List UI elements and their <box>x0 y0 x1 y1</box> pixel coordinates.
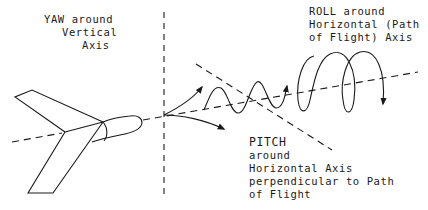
lower-stabilizer <box>28 122 103 193</box>
pitch-label-line-1: PITCH <box>249 136 394 149</box>
roll-label-line-1: ROLL around <box>309 5 420 18</box>
fuselage <box>92 116 142 142</box>
roll-label: ROLL around Horizontal (Path of Flight) … <box>309 5 420 44</box>
yaw-arrow-down <box>164 115 224 129</box>
roll-label-line-2: Horizontal (Path <box>309 18 420 31</box>
pitch-label-line-5: of Flight <box>249 188 394 201</box>
pitch-label: PITCH around Horizontal Axis perpendicul… <box>249 136 394 201</box>
horizontal-axis-dashed-line-rear <box>12 133 62 142</box>
horizontal-axis-dashed-line-front <box>143 72 418 120</box>
pitch-label-line-2: around <box>249 149 394 162</box>
yaw-label-line-3: Axis <box>44 39 117 52</box>
yaw-label-line-1: YAW around <box>44 13 117 26</box>
yaw-label-line-2: Vertical <box>44 26 117 39</box>
roll-label-line-3: of Flight) Axis <box>309 31 420 44</box>
yaw-label: YAW around Vertical Axis <box>44 13 117 52</box>
pitch-label-line-3: Horizontal Axis <box>249 162 394 175</box>
aircraft-tail <box>15 90 142 193</box>
roll-spiral-arrow <box>298 52 384 112</box>
pitch-label-line-4: perpendicular to Path <box>249 175 394 188</box>
